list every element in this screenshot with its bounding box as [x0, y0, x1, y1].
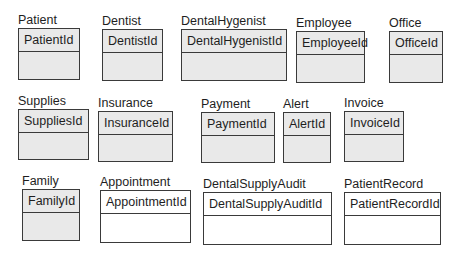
entity-box: DentalSupplyAuditId	[203, 192, 332, 245]
entity-box: DentistId	[102, 29, 163, 81]
entity-attributes	[390, 55, 442, 82]
entity-key-field: PatientId	[19, 29, 79, 52]
entity-key-field: AlertId	[284, 113, 330, 136]
entity-supplies[interactable]: Supplies SuppliesId	[18, 109, 89, 160]
entity-name: Family	[22, 174, 59, 188]
entity-name: DentalHygenist	[181, 14, 266, 28]
entity-box: EmployeeId	[296, 31, 365, 83]
entity-alert[interactable]: Alert AlertId	[283, 112, 331, 163]
entity-key-field: PatientRecordId	[345, 193, 440, 216]
entity-patient-record[interactable]: PatientRecord PatientRecordId	[344, 192, 441, 245]
entity-name: Supplies	[18, 94, 66, 108]
entity-attributes	[284, 136, 330, 162]
entity-key-field: FamilyId	[23, 190, 79, 213]
entity-attributes	[182, 53, 286, 80]
entity-key-field: DentistId	[103, 30, 162, 53]
entity-family[interactable]: Family FamilyId	[22, 189, 80, 241]
entity-insurance[interactable]: Insurance InsuranceId	[98, 111, 173, 162]
entity-key-field: DentalSupplyAuditId	[204, 193, 331, 216]
entity-name: Employee	[296, 16, 352, 30]
entity-name: Dentist	[102, 14, 141, 28]
entity-employee[interactable]: Employee EmployeeId	[296, 31, 365, 83]
entity-attributes	[204, 216, 331, 244]
entity-box: PatientRecordId	[344, 192, 441, 245]
entity-name: DentalSupplyAudit	[203, 177, 306, 191]
entity-name: Invoice	[344, 96, 384, 110]
entity-payment[interactable]: Payment PaymentId	[201, 112, 275, 163]
entity-attributes	[345, 216, 440, 244]
entity-attributes	[23, 213, 79, 240]
entity-box: AlertId	[283, 112, 331, 163]
entity-name: Office	[389, 16, 421, 30]
entity-box: DentalHygenistId	[181, 29, 287, 81]
entity-office[interactable]: Office OfficeId	[389, 31, 443, 83]
entity-name: Payment	[201, 97, 250, 111]
entity-attributes	[202, 136, 274, 162]
entity-attributes	[345, 135, 403, 161]
entity-name: PatientRecord	[344, 177, 423, 191]
entity-attributes	[99, 135, 172, 161]
entity-attributes	[19, 133, 88, 159]
entity-dentist[interactable]: Dentist DentistId	[102, 29, 163, 81]
entity-box: PaymentId	[201, 112, 275, 163]
entity-box: PatientId	[18, 28, 80, 80]
entity-attributes	[297, 55, 364, 82]
entity-name: Alert	[283, 97, 309, 111]
entity-appointment[interactable]: Appointment AppointmentId	[100, 190, 191, 243]
entity-key-field: DentalHygenistId	[182, 30, 286, 53]
entity-key-field: PaymentId	[202, 113, 274, 136]
entity-name: Appointment	[100, 175, 170, 189]
entity-box: FamilyId	[22, 189, 80, 241]
entity-box: SuppliesId	[18, 109, 89, 160]
entity-key-field: InvoiceId	[345, 112, 403, 135]
entity-key-field: InsuranceId	[99, 112, 172, 135]
entity-dental-supply-audit[interactable]: DentalSupplyAudit DentalSupplyAuditId	[203, 192, 332, 245]
entity-box: AppointmentId	[100, 190, 191, 243]
entity-name: Patient	[18, 13, 57, 27]
entity-box: InsuranceId	[98, 111, 173, 162]
entity-key-field: EmployeeId	[297, 32, 364, 55]
entity-key-field: OfficeId	[390, 32, 442, 55]
entity-attributes	[103, 53, 162, 80]
entity-box: InvoiceId	[344, 111, 404, 162]
entity-attributes	[101, 214, 190, 242]
entity-patient[interactable]: Patient PatientId	[18, 28, 80, 80]
entity-attributes	[19, 52, 79, 79]
entity-key-field: AppointmentId	[101, 191, 190, 214]
entity-key-field: SuppliesId	[19, 110, 88, 133]
entity-invoice[interactable]: Invoice InvoiceId	[344, 111, 404, 162]
entity-dental-hygenist[interactable]: DentalHygenist DentalHygenistId	[181, 29, 287, 81]
entity-box: OfficeId	[389, 31, 443, 83]
entity-name: Insurance	[98, 96, 153, 110]
